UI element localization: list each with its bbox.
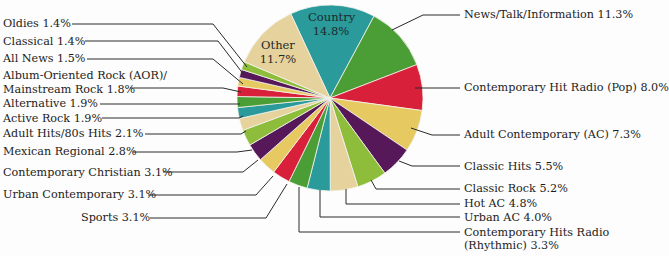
- label-country-name: Country: [308, 10, 354, 24]
- label-contemporary-christian: Contemporary Christian 3.1%: [3, 166, 173, 179]
- leader-contemporary-christian: [163, 160, 258, 172]
- leader-news-talk: [392, 15, 460, 30]
- label-alternative: Alternative 1.9%: [3, 97, 98, 110]
- label-aor-line2: Mainstream Rock 1.8%: [3, 83, 167, 96]
- label-hot-ac: Hot AC 4.8%: [464, 197, 537, 210]
- label-country-value: 14.8%: [308, 24, 354, 38]
- label-adult-hits: Adult Hits/80s Hits 2.1%: [3, 127, 144, 140]
- leader-ac: [411, 128, 460, 135]
- label-news-talk: News/Talk/Information 11.3%: [464, 8, 633, 21]
- label-classic-rock: Classic Rock 5.2%: [464, 182, 568, 195]
- label-aor-line1: Album-Oriented Rock (AOR)/: [3, 69, 167, 82]
- label-classical: Classical 1.4%: [3, 35, 85, 48]
- leader-mexican-regional: [133, 150, 252, 152]
- label-all-news: All News 1.5%: [3, 52, 86, 65]
- label-chr-rhythmic-line1: Contemporary Hits Radio: [464, 226, 609, 239]
- label-country: Country 14.8%: [308, 10, 354, 38]
- label-urban-contemporary: Urban Contemporary 3.1%: [3, 188, 156, 201]
- leader-sports: [150, 184, 287, 218]
- leader-hot-ac: [346, 189, 460, 204]
- label-oldies: Oldies 1.4%: [3, 17, 71, 30]
- leader-adult-hits: [145, 131, 246, 134]
- label-classic-hits: Classic Hits 5.5%: [464, 160, 563, 173]
- label-urban-ac: Urban AC 4.0%: [464, 211, 552, 224]
- label-other-name: Other: [258, 38, 298, 52]
- label-ac: Adult Contemporary (AC) 7.3%: [464, 128, 641, 141]
- label-active-rock: Active Rock 1.9%: [3, 112, 102, 125]
- label-mexican-regional: Mexican Regional 2.8%: [3, 145, 137, 158]
- label-sports: Sports 3.1%: [81, 211, 150, 224]
- label-chr-rhythmic: Contemporary Hits Radio (Rhythmic) 3.3%: [464, 226, 609, 252]
- leader-classic-hits: [399, 161, 460, 166]
- label-chr-pop: Contemporary Hit Radio (Pop) 8.0%: [464, 81, 669, 94]
- label-aor: Album-Oriented Rock (AOR)/ Mainstream Ro…: [3, 69, 167, 96]
- label-chr-rhythmic-line2: (Rhythmic) 3.3%: [464, 239, 609, 252]
- leader-classic-rock: [371, 180, 460, 189]
- leader-active-rock: [102, 116, 243, 118]
- label-other: Other 11.7%: [258, 38, 298, 66]
- leader-chr-rhythmic: [299, 187, 460, 232]
- label-other-value: 11.7%: [258, 52, 298, 66]
- leader-oldies: [72, 24, 247, 67]
